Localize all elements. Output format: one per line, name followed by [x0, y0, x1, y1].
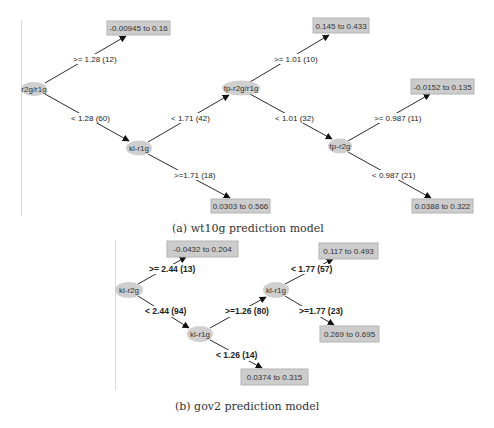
leaf-a1: -0.00945 to 0.16	[107, 21, 170, 35]
tree-diagram-wt10g: >= 1.28 (12) < 1.28 (60) < 1.71 (42) >=1…	[0, 0, 494, 428]
leaf-label-b4: 0.269 to 0.695	[324, 330, 376, 339]
caption-a: (a) wt10g prediction model	[172, 222, 324, 235]
edge-label-kl-r1g-high-leaf-b4: >=1.77 (23)	[299, 306, 343, 316]
leaf-label-a3: 0.145 to 0.433	[315, 22, 367, 31]
edge-label-tp-r2g-leaf5: < 0.987 (21)	[372, 171, 416, 180]
node-label-tp-r2g-r1g: tp-r2g/r1g	[224, 84, 259, 93]
node-kl-r2g: kl-r2g	[115, 282, 143, 298]
edge-label-kl-r1g-leaf2: >=1.71 (18)	[174, 171, 216, 180]
edge-label-tp-r2g-leaf4: >= 0.987 (11)	[374, 114, 422, 123]
leaf-b1: -0.0432 to 0.204	[167, 241, 238, 257]
edge-label-root-kl-r1g: < 1.28 (60)	[71, 114, 110, 123]
node-tp-r2g: tp-r2g	[328, 139, 352, 154]
leaf-label-a1: -0.00945 to 0.16	[109, 24, 168, 33]
leaf-b4: 0.269 to 0.695	[320, 326, 379, 342]
leaf-label-b2: 0.0374 to 0.315	[247, 373, 303, 382]
edge-labels-b: >= 2.44 (13) < 2.44 (94) >=1.26 (80) < 1…	[144, 264, 343, 361]
edge-label-kl-r1g-leaf-b2: < 1.26 (14)	[216, 350, 258, 360]
leaf-b2: 0.0374 to 0.315	[241, 369, 308, 385]
leaf-label-a2: 0.0303 to 0.566	[213, 202, 269, 211]
edge-label-kl-r1g-tp: < 1.71 (42)	[171, 114, 210, 123]
edge-label-tp-leaf3: >= 1.01 (10)	[274, 55, 318, 64]
edge-label-kl-r2g-leaf1: >= 2.44 (13)	[149, 264, 195, 274]
node-r2g-r1g: r2g/r1g	[21, 82, 47, 96]
leaf-a5: 0.0388 to 0.322	[412, 199, 473, 213]
leaf-b3: 0.117 to 0.493	[319, 243, 378, 259]
node-tp-r2g-r1g: tp-r2g/r1g	[222, 81, 260, 96]
node-label-kl-r2g: kl-r2g	[119, 286, 139, 295]
node-kl-r1g: kl-r1g	[126, 141, 152, 156]
node-label-tp-r2g: tp-r2g	[330, 142, 351, 151]
leaf-label-b3: 0.117 to 0.493	[323, 247, 374, 256]
edge-label-tp-tp-r2g: < 1.01 (32)	[275, 114, 314, 123]
leaf-label-a4: -0.0152 to 0.135	[413, 83, 472, 92]
leaf-a2: 0.0303 to 0.566	[211, 199, 270, 213]
leaf-a3: 0.145 to 0.433	[313, 18, 369, 33]
leaf-a4: -0.0152 to 0.135	[411, 79, 474, 94]
node-label-kl-r1g-high: kl-r1g	[266, 286, 286, 295]
node-label-r2g-r1g: r2g/r1g	[21, 85, 46, 94]
edge-label-root-leaf1: >= 1.28 (12)	[73, 55, 117, 64]
edge-label-kl-r2g-kl-r1g: < 2.44 (94)	[145, 306, 187, 316]
caption-b: (b) gov2 prediction model	[175, 400, 319, 413]
node-label-kl-r1g: kl-r1g	[129, 144, 149, 153]
edge-label-kl-r1g-high-leaf-b3: < 1.77 (57)	[291, 264, 333, 274]
edge-label-kl-r1g-kl-r1g: >=1.26 (80)	[225, 306, 269, 316]
node-kl-r1g-high: kl-r1g	[263, 282, 289, 298]
leaf-label-b1: -0.0432 to 0.204	[173, 245, 232, 254]
node-kl-r1g-low: kl-r1g	[187, 326, 213, 342]
edge-labels-a: >= 1.28 (12) < 1.28 (60) < 1.71 (42) >=1…	[70, 54, 423, 180]
node-label-kl-r1g-low: kl-r1g	[190, 330, 210, 339]
leaf-label-a5: 0.0388 to 0.322	[415, 202, 471, 211]
